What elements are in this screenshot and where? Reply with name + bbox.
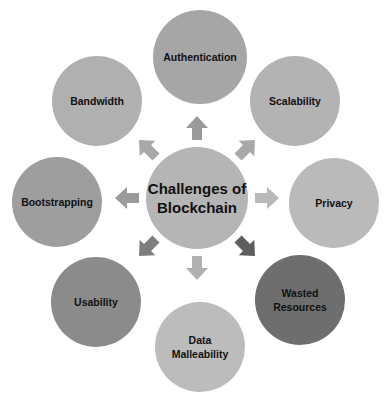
node-bootstrapping-label: Bootstrapping: [21, 195, 93, 209]
arrow-icon-to-scalability: [230, 132, 263, 165]
node-bandwidth: Bandwidth: [52, 56, 142, 146]
node-authentication: Authentication: [153, 10, 247, 104]
node-scalability: Scalability: [250, 56, 340, 146]
node-data-malleability: Data Malleability: [155, 302, 245, 392]
node-wasted-resources-label: Wasted Resources: [273, 286, 327, 314]
node-data-malleability-label: Data Malleability: [172, 333, 229, 361]
arrow-icon-to-usability: [131, 231, 164, 264]
arrow-icon-to-bootstrapping: [115, 187, 139, 209]
challenges-diagram: Challenges of BlockchainAuthenticationSc…: [0, 0, 388, 397]
arrow-icon-to-data-malleability: [186, 256, 208, 280]
node-usability: Usability: [51, 257, 141, 347]
node-bandwidth-label: Bandwidth: [70, 94, 124, 108]
arrow-icon-to-privacy: [255, 187, 279, 209]
node-privacy-label: Privacy: [315, 196, 352, 210]
arrow-icon-to-wasted-resources: [230, 231, 263, 264]
center-hub-node: Challenges of Blockchain: [146, 147, 248, 249]
node-authentication-label: Authentication: [163, 50, 237, 64]
arrow-icon-to-bandwidth: [131, 132, 164, 165]
center-hub-node-label: Challenges of Blockchain: [148, 179, 246, 218]
node-usability-label: Usability: [74, 295, 118, 309]
node-scalability-label: Scalability: [269, 94, 321, 108]
node-wasted-resources: Wasted Resources: [255, 255, 345, 345]
node-bootstrapping: Bootstrapping: [12, 157, 102, 247]
node-privacy: Privacy: [289, 158, 379, 248]
arrow-icon-to-authentication: [186, 116, 208, 140]
